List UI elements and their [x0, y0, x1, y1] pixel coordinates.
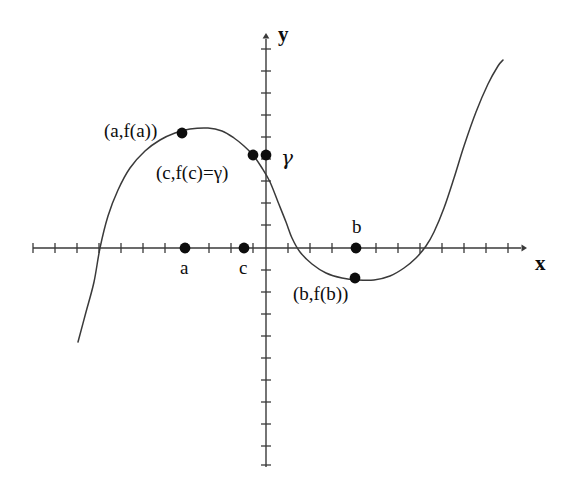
label-b-f-b: (b,f(b))	[293, 284, 348, 303]
marked-point-dot	[351, 243, 362, 254]
figure-container: y x (a,f(a)) (c,f(c)=γ) γ (b,f(b)) a c b	[0, 0, 571, 485]
x-axis-arrowhead	[522, 245, 528, 252]
y-axis-arrowhead	[263, 33, 270, 39]
marked-point-dot	[261, 150, 272, 161]
function-curve	[78, 60, 503, 342]
axes-group	[33, 33, 527, 467]
function-curve-group	[78, 60, 503, 342]
marked-point-dot	[350, 273, 361, 284]
label-b: b	[352, 217, 362, 236]
label-gamma: γ	[281, 148, 293, 168]
label-c: c	[239, 258, 247, 277]
marked-point-dot	[180, 243, 191, 254]
y-axis-label: y	[278, 24, 289, 45]
label-a-f-a: (a,f(a))	[104, 121, 157, 140]
label-c-f-c-gamma: (c,f(c)=γ)	[156, 163, 228, 182]
x-axis-label: x	[535, 253, 546, 274]
axis-ticks-group	[33, 49, 508, 465]
marked-point-dot	[248, 150, 259, 161]
marked-point-dot	[177, 128, 188, 139]
marked-point-dot	[239, 243, 250, 254]
marked-points-group	[177, 128, 362, 284]
ivt-graph-svg	[0, 0, 571, 485]
label-a: a	[180, 258, 188, 277]
